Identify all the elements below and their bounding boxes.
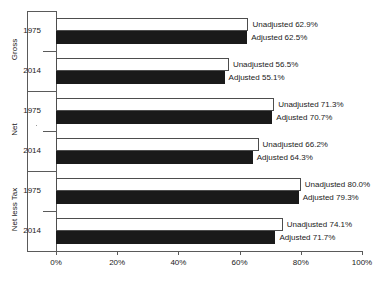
group-boundary-tick: [27, 91, 56, 92]
x-axis-tick: [117, 251, 118, 255]
x-axis-tick-label: 0%: [36, 258, 76, 267]
data-label-unadjusted-gross-2014: Unadjusted 56.5%: [233, 60, 298, 69]
data-label-adjusted-net-less-tax-2014: Adjusted 71.7%: [279, 233, 335, 242]
bar-unadjusted-net-less-tax-2014: [56, 218, 283, 231]
group-label-gross: Gross: [10, 10, 19, 90]
bar-unadjusted-gross-1975: [56, 18, 248, 31]
bar-unadjusted-net-1975: [56, 98, 274, 111]
bar-adjusted-net-2014: [56, 151, 253, 164]
bar-unadjusted-net-2014: [56, 138, 259, 151]
x-axis-tick-label: 20%: [97, 258, 137, 267]
bar-chart: 0%20%40%60%80%100%Gross1975Unadjusted 62…: [0, 0, 387, 283]
bar-adjusted-net-1975: [56, 111, 272, 124]
x-axis-tick: [240, 251, 241, 255]
data-label-adjusted-net-2014: Adjusted 64.3%: [257, 153, 313, 162]
data-label-unadjusted-net-1975: Unadjusted 71.3%: [278, 100, 343, 109]
x-axis-line: [56, 251, 362, 252]
x-axis-tick: [362, 251, 363, 255]
data-label-adjusted-net-1975: Adjusted 70.7%: [276, 113, 332, 122]
group-boundary-tick: [27, 11, 56, 12]
bar-adjusted-gross-1975: [56, 31, 247, 44]
data-label-adjusted-gross-2014: Adjusted 55.1%: [229, 73, 285, 82]
year-label-1975: 1975: [15, 186, 41, 195]
x-axis-tick-label: 100%: [342, 258, 382, 267]
bar-adjusted-net-less-tax-1975: [56, 191, 299, 204]
year-boundary-tick: [43, 131, 56, 132]
year-label-2014: 2014: [15, 226, 41, 235]
year-boundary-tick: [43, 51, 56, 52]
data-label-unadjusted-net-less-tax-1975: Unadjusted 80.0%: [305, 180, 370, 189]
x-axis-tick: [178, 251, 179, 255]
year-boundary-tick: [43, 211, 56, 212]
group-boundary-tick: [27, 171, 56, 172]
year-label-1975: 1975: [15, 106, 41, 115]
year-label-2014: 2014: [15, 66, 41, 75]
group-label-net: Net: [10, 90, 19, 170]
bar-unadjusted-net-less-tax-1975: [56, 178, 301, 191]
year-label-2014: 2014: [15, 146, 41, 155]
data-label-adjusted-net-less-tax-1975: Adjusted 79.3%: [303, 193, 359, 202]
x-axis-tick: [301, 251, 302, 255]
bar-adjusted-gross-2014: [56, 71, 225, 84]
data-label-unadjusted-net-2014: Unadjusted 66.2%: [263, 140, 328, 149]
x-axis-tick-label: 60%: [220, 258, 260, 267]
data-label-unadjusted-gross-1975: Unadjusted 62.9%: [252, 20, 317, 29]
group-label-net-less-tax: Net less Tax: [10, 170, 19, 250]
year-label-1975: 1975: [15, 26, 41, 35]
group-boundary-tick: [27, 251, 56, 252]
x-axis-tick-label: 40%: [158, 258, 198, 267]
data-label-unadjusted-net-less-tax-2014: Unadjusted 74.1%: [287, 220, 352, 229]
data-label-adjusted-gross-1975: Adjusted 62.5%: [251, 33, 307, 42]
x-axis-tick-label: 80%: [281, 258, 321, 267]
y-axis-line: [56, 11, 57, 251]
x-axis-tick: [56, 251, 57, 255]
bar-unadjusted-gross-2014: [56, 58, 229, 71]
bar-adjusted-net-less-tax-2014: [56, 231, 275, 244]
